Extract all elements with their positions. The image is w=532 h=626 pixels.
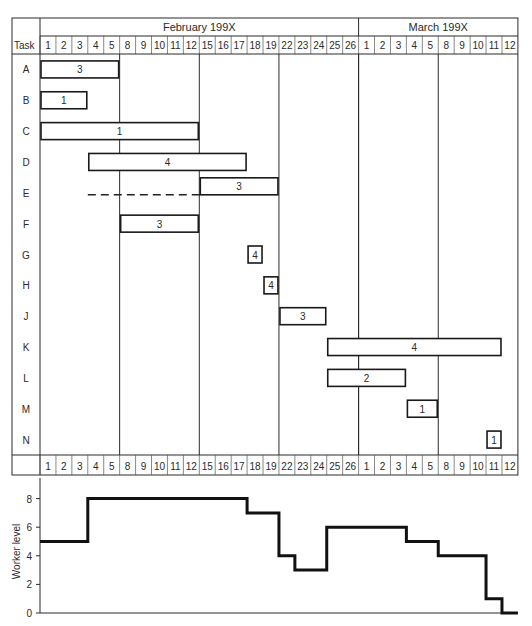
day-label: 9 (459, 40, 465, 51)
day-label: 8 (443, 40, 449, 51)
task-label: E (23, 188, 30, 199)
day-label: 3 (77, 40, 83, 51)
task-row-E: E3 (23, 178, 278, 199)
y-tick-label: 4 (26, 551, 32, 562)
task-row-M: M1 (22, 400, 437, 417)
day-label: 24 (313, 461, 325, 472)
day-label: 12 (186, 461, 198, 472)
worker-count: 3 (77, 64, 83, 75)
task-label: J (24, 311, 29, 322)
task-label: C (22, 126, 29, 137)
worker-count: 4 (165, 157, 171, 168)
day-label: 2 (61, 40, 67, 51)
day-label: 3 (396, 461, 402, 472)
gantt-grid (12, 18, 518, 475)
day-label: 11 (489, 40, 500, 51)
day-label: 25 (329, 40, 341, 51)
task-row-F: F3 (23, 215, 198, 232)
task-label: L (23, 373, 29, 384)
day-label: 10 (473, 461, 485, 472)
day-label: 9 (141, 461, 147, 472)
worker-count: 4 (252, 250, 258, 261)
day-label: 2 (380, 461, 386, 472)
task-label: A (23, 64, 30, 75)
day-label: 1 (364, 461, 370, 472)
task-label: K (23, 342, 30, 353)
day-label: 1 (45, 461, 51, 472)
task-row-J: J3 (24, 308, 326, 325)
day-label: 16 (218, 40, 230, 51)
day-label: 8 (443, 461, 449, 472)
task-row-C: C1 (22, 123, 198, 140)
day-label: 18 (249, 461, 261, 472)
day-label: 2 (61, 461, 67, 472)
worker-count: 2 (364, 373, 370, 384)
day-label: 24 (313, 40, 325, 51)
task-row-A: A3 (23, 61, 119, 78)
worker-count: 4 (268, 280, 274, 291)
worker-count: 3 (157, 219, 163, 230)
day-label: 23 (297, 461, 309, 472)
day-label: 8 (125, 40, 131, 51)
y-tick-label: 2 (26, 579, 32, 590)
day-label: 3 (396, 40, 402, 51)
day-label: 15 (202, 461, 214, 472)
day-label: 12 (186, 40, 198, 51)
day-label: 10 (154, 40, 166, 51)
day-label: 4 (412, 461, 418, 472)
day-label: 4 (93, 40, 99, 51)
worker-count: 4 (412, 342, 418, 353)
task-row-N: N1 (22, 431, 501, 448)
day-label: 1 (364, 40, 370, 51)
day-label: 23 (297, 40, 309, 51)
task-rows: A3B1C1D4E3F3G4H4J3K4L2M1N1 (22, 61, 501, 448)
task-row-B: B1 (23, 92, 87, 109)
gantt-and-resource-chart: February 199XMarch 199XTask1234589101112… (0, 0, 532, 626)
month-label: February 199X (163, 21, 236, 33)
worker-count: 1 (117, 126, 123, 137)
day-label: 11 (170, 461, 181, 472)
table-frame (12, 18, 518, 475)
day-label: 22 (281, 461, 293, 472)
day-label: 15 (202, 40, 214, 51)
task-label: F (23, 219, 29, 230)
day-label: 10 (473, 40, 485, 51)
day-label: 12 (504, 40, 516, 51)
day-label: 2 (380, 40, 386, 51)
day-label: 5 (428, 461, 434, 472)
day-label: 9 (141, 40, 147, 51)
day-label: 1 (45, 40, 51, 51)
day-label: 18 (249, 40, 261, 51)
worker-level-step-line (40, 499, 518, 613)
task-row-K: K4 (23, 339, 501, 356)
day-label: 17 (234, 461, 246, 472)
day-label: 5 (109, 40, 115, 51)
y-axis-label: Worker level (11, 524, 22, 579)
y-tick-label: 6 (26, 522, 32, 533)
day-label: 25 (329, 461, 341, 472)
day-label: 5 (109, 461, 115, 472)
task-label: M (22, 404, 30, 415)
day-label: 26 (345, 461, 357, 472)
task-label: D (22, 157, 29, 168)
task-row-G: G4 (22, 246, 262, 263)
worker-count: 3 (236, 181, 242, 192)
day-label: 22 (281, 40, 293, 51)
day-label: 11 (170, 40, 181, 51)
day-label: 5 (428, 40, 434, 51)
day-label: 16 (218, 461, 230, 472)
day-label: 19 (265, 461, 277, 472)
day-label: 9 (459, 461, 465, 472)
day-label: 19 (265, 40, 277, 51)
worker-count: 1 (420, 404, 426, 415)
date-footer: 1234589101112151617181922232425261234589… (40, 455, 516, 475)
day-label: 17 (234, 40, 246, 51)
day-label: 4 (412, 40, 418, 51)
day-label: 8 (125, 461, 131, 472)
task-column-header: Task (14, 40, 36, 51)
worker-count: 3 (300, 311, 306, 322)
task-row-H: H4 (22, 277, 278, 294)
day-label: 4 (93, 461, 99, 472)
task-row-L: L2 (23, 369, 405, 386)
worker-count: 1 (61, 95, 67, 106)
